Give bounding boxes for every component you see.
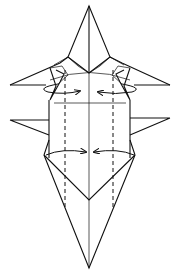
upper-right-fold-arrow	[98, 84, 136, 94]
diagram-svg	[0, 0, 183, 273]
origami-diagram	[0, 0, 183, 273]
upper-left-fold-arrow	[44, 84, 80, 93]
lower-left-fold-arrow	[46, 151, 86, 155]
lower-right-flap	[130, 118, 170, 135]
lower-left-flap	[10, 120, 49, 135]
bottom-point	[44, 140, 135, 268]
top-point	[54, 6, 124, 73]
body	[49, 100, 130, 158]
lower-right-fold-arrow	[94, 151, 134, 155]
